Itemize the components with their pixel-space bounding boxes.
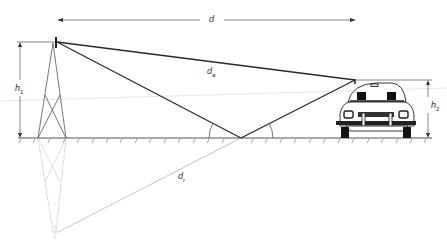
direct-ray [57,42,355,80]
reflected-path-label-sub: r [183,177,185,183]
distance-label-text: d [209,14,214,24]
direct-path-label-sub: a [212,72,215,78]
reflected-path-label: dr [178,172,185,183]
mirrored-tower-image [38,138,66,240]
rx-height-label-sub: 2 [436,106,439,112]
reflected-ray [57,42,355,138]
image-ray [58,138,241,232]
reflection-angle-arc [269,123,273,138]
direct-path-label: da [207,67,215,78]
rx-height-label: h2 [431,101,439,112]
transmitter-tower [38,43,66,138]
two-ray-diagram [0,0,447,247]
tx-height-label: h1 [15,84,23,95]
ground-plane [18,138,432,143]
distance-arrow [57,18,356,22]
distance-label: d [209,15,214,24]
incidence-angle-arc [209,123,213,138]
tx-height-label-sub: 1 [20,89,23,95]
